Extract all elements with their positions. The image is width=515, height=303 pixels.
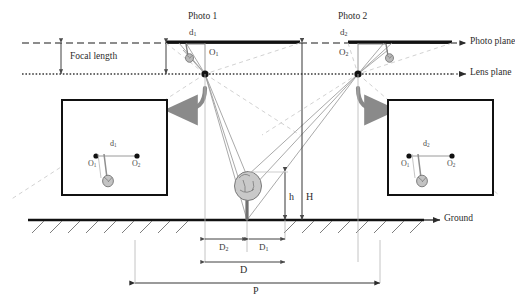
- inset-right-d-label: d2: [423, 140, 430, 148]
- D1-label: D1: [259, 243, 268, 253]
- ground-label: Ground: [444, 214, 473, 224]
- lens-plane-label: Lens plane: [470, 68, 511, 78]
- tree-object: [235, 172, 262, 221]
- photo1-title: Photo 1: [188, 12, 217, 22]
- H-label: H: [306, 192, 313, 202]
- inset-left-point-O2: [134, 153, 139, 158]
- ground-group: [28, 220, 440, 233]
- tree-crown: [235, 172, 262, 201]
- photo2-title: Photo 2: [338, 12, 367, 22]
- O2-label: O2: [339, 48, 348, 58]
- ray-bundle: [179, 43, 392, 220]
- inset-right: [388, 100, 493, 195]
- O1-label: O1: [209, 48, 218, 58]
- inset-right-O2-label: O2: [447, 160, 455, 168]
- ground-hatching: [32, 221, 422, 233]
- focal-length-label: Focal length: [70, 52, 117, 62]
- inset-right-point-O1: [406, 153, 411, 158]
- dimension-extension-lines: [205, 74, 358, 262]
- h-label: h: [289, 192, 294, 202]
- D-label: D: [240, 265, 247, 275]
- inset-left-d-label: d1: [110, 140, 117, 148]
- bottom-dimensions: [135, 239, 380, 283]
- inset-left-O1-label: O1: [88, 160, 96, 168]
- photo-plane-group: [22, 41, 466, 44]
- photo2-details: [354, 43, 393, 78]
- d2-label: d2: [340, 28, 347, 38]
- d1-label: d1: [189, 28, 196, 38]
- inset-right-frame: [388, 100, 493, 195]
- photo2-tree-image: [386, 44, 394, 62]
- P-label: P: [253, 286, 259, 296]
- D2-label: D2: [219, 243, 228, 253]
- film-bar-photo2: [348, 41, 452, 44]
- inset-right-O1-label: O1: [401, 160, 409, 168]
- inset-left-O2-label: O2: [132, 160, 140, 168]
- inset-right-point-O2: [449, 153, 454, 158]
- arrow-to-left-inset: [181, 88, 205, 110]
- photo-plane-label: Photo plane: [470, 37, 515, 47]
